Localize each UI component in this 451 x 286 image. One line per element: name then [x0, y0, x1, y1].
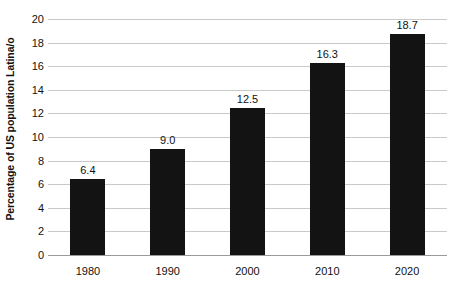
bar-value-label: 12.5 — [218, 94, 278, 105]
bar — [150, 149, 185, 255]
plot-area: 6.419809.0199012.5200016.3201018.72020 — [48, 0, 447, 286]
y-tick-label: 10 — [32, 132, 44, 143]
y-tick-label: 12 — [32, 108, 44, 119]
y-tick-label: 2 — [38, 226, 44, 237]
bar — [230, 108, 265, 256]
gridline — [48, 43, 447, 44]
y-tick-label: 0 — [38, 250, 44, 261]
x-tick-label: 1980 — [58, 266, 118, 277]
x-tick-label: 2000 — [218, 266, 278, 277]
y-tick-label: 4 — [38, 202, 44, 213]
x-axis-line — [48, 255, 447, 256]
y-tick-label: 20 — [32, 14, 44, 25]
bar-value-label: 18.7 — [377, 20, 437, 31]
bar-value-label: 16.3 — [297, 49, 357, 60]
gridline — [48, 90, 447, 91]
bar — [70, 179, 105, 255]
x-tick-label: 1990 — [138, 266, 198, 277]
gridline — [48, 66, 447, 67]
y-tick-label: 6 — [38, 179, 44, 190]
bar-chart: Percentage of US population Latina/o 024… — [0, 0, 451, 286]
y-tick-label: 18 — [32, 37, 44, 48]
bar — [390, 34, 425, 255]
bar-value-label: 9.0 — [138, 135, 198, 146]
bar-value-label: 6.4 — [58, 165, 118, 176]
y-tick-label: 14 — [32, 84, 44, 95]
bar — [310, 63, 345, 255]
y-tick-label: 8 — [38, 155, 44, 166]
y-tick-label: 16 — [32, 61, 44, 72]
x-tick-label: 2020 — [377, 266, 437, 277]
y-axis-title: Percentage of US population Latina/o — [0, 0, 20, 258]
x-tick-label: 2010 — [297, 266, 357, 277]
y-axis-tick-labels: 02468101214161820 — [20, 0, 46, 286]
y-axis-title-text: Percentage of US population Latina/o — [4, 37, 16, 220]
